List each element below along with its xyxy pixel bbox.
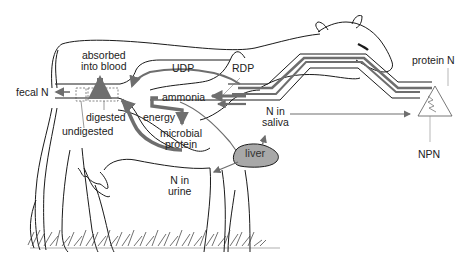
label-undigested: undigested	[62, 126, 113, 137]
label-energy: energy	[143, 112, 175, 123]
label-rdp: RDP	[232, 63, 254, 74]
undigested-box	[76, 88, 86, 101]
label-n-in-saliva: N in saliva	[262, 106, 289, 128]
label-protein-n: protein N	[412, 55, 455, 66]
label-microbial-line2: protein	[160, 139, 202, 150]
label-microbial-protein: microbial protein	[160, 128, 202, 150]
label-saliva-line2: saliva	[262, 117, 289, 128]
label-n-in-urine: N in urine	[168, 175, 191, 197]
feed-triangle	[418, 68, 452, 142]
label-absorbed-into-blood: absorbed into blood	[81, 50, 127, 72]
label-fecal-n: fecal N	[16, 87, 49, 98]
label-liver: liver	[245, 148, 265, 159]
label-udp: UDP	[172, 63, 194, 74]
label-absorbed-line2: into blood	[81, 61, 127, 72]
grass	[28, 230, 280, 248]
label-npn: NPN	[418, 149, 440, 160]
label-digested: digested	[86, 112, 126, 123]
label-ammonia: ammonia	[162, 92, 205, 103]
nitrogen-cycle-diagram: absorbed into blood UDP RDP protein N fe…	[0, 0, 470, 257]
label-urine-line2: urine	[168, 186, 191, 197]
